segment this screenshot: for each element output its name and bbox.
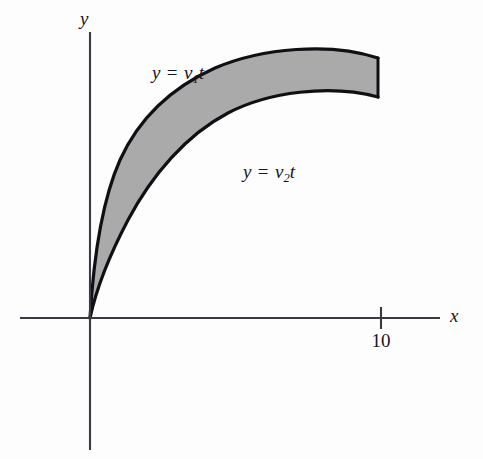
- curve-1-annotation: y = v1t: [152, 62, 204, 84]
- curve-2-suffix: t: [290, 161, 296, 182]
- plot-canvas: [0, 0, 483, 459]
- curve-2-subscript: 2: [284, 171, 290, 185]
- y-axis-label: y: [80, 8, 89, 30]
- curve-1-operator: =: [166, 62, 179, 83]
- x-tick-label-10: 10: [366, 330, 396, 352]
- curve-2-annotation: y = v2t: [243, 161, 295, 183]
- curve-2-variable: v: [275, 161, 284, 182]
- curve-1-variable: v: [184, 62, 193, 83]
- figure-container: y x 10 y = v1t y = v2t: [0, 0, 483, 459]
- curve-1-lhs: y: [152, 62, 161, 83]
- curve-1-subscript: 1: [193, 72, 199, 86]
- curve-2-operator: =: [257, 161, 270, 182]
- curve-2-lhs: y: [243, 161, 252, 182]
- curve-1-suffix: t: [199, 62, 205, 83]
- x-axis-label: x: [450, 305, 459, 327]
